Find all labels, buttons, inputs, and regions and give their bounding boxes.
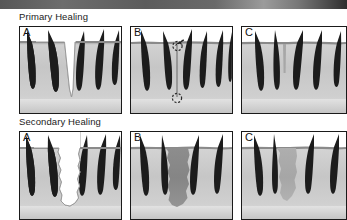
primary-healing-title: Primary Healing	[19, 11, 88, 22]
scan-artifact-band	[0, 0, 347, 9]
primary-panel-b[interactable]: B	[130, 26, 233, 114]
primary-panel-a[interactable]: A	[19, 26, 122, 114]
secondary-panel-a[interactable]: A	[19, 131, 122, 220]
primary-panel-c[interactable]: C	[241, 26, 347, 114]
secondary-panel-c[interactable]: C	[241, 131, 347, 220]
secondary-healing-title: Secondary Healing	[19, 116, 101, 127]
primary-panel-row: A	[0, 26, 347, 116]
wound-healing-figure: Primary Healing A	[0, 0, 347, 220]
primary-healing-section: Primary Healing A	[0, 10, 347, 115]
granulation-tissue	[166, 148, 190, 207]
secondary-panel-row: A	[0, 131, 347, 220]
secondary-healing-section: Secondary Healing A	[0, 115, 347, 220]
secondary-panel-b[interactable]: B	[130, 131, 233, 220]
